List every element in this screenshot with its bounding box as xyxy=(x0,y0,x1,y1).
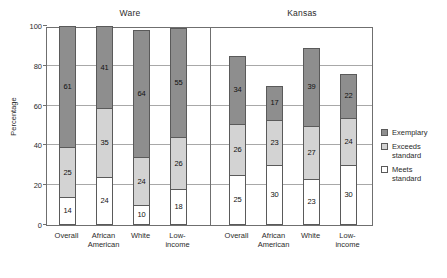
y-tick-mark xyxy=(43,65,47,66)
bar-segment-value: 34 xyxy=(233,86,241,94)
bar-segment-value: 27 xyxy=(307,149,315,157)
bar-segment-meets-standard: 24 xyxy=(96,177,113,225)
bar-segment-exemplary: 22 xyxy=(340,74,357,118)
legend-item: Exemplary xyxy=(381,128,447,137)
legend-item: Meetsstandard xyxy=(381,165,447,183)
bar-segment-value: 24 xyxy=(100,197,108,205)
plot-area: 1425612435411024641826552526343023172327… xyxy=(46,27,373,226)
bar-segment-exceeds-standard: 24 xyxy=(340,118,357,166)
bar-segment-value: 18 xyxy=(174,203,182,211)
bar-segment-exemplary: 17 xyxy=(266,86,283,120)
bar-segment-meets-standard: 23 xyxy=(303,179,320,225)
y-tick-mark xyxy=(43,105,47,106)
legend-swatch-icon xyxy=(381,143,388,150)
bar-segment-meets-standard: 10 xyxy=(133,205,150,225)
bar-segment-value: 64 xyxy=(137,90,145,98)
stacked-bar-chart: Ware Kansas Percentage 020406080100 1425… xyxy=(0,0,447,278)
stacked-bar: 243541 xyxy=(96,26,113,225)
bar-segment-value: 22 xyxy=(344,92,352,100)
bar-segment-value: 39 xyxy=(307,83,315,91)
panel-divider xyxy=(210,28,211,225)
y-tick-mark xyxy=(43,25,47,26)
bar-segment-exemplary: 34 xyxy=(229,56,246,124)
y-axis-ticks: 020406080100 xyxy=(16,0,42,278)
bar-segment-exceeds-standard: 35 xyxy=(96,108,113,178)
y-tick-label: 80 xyxy=(18,63,42,71)
legend-swatch-icon xyxy=(381,129,388,136)
y-tick-mark xyxy=(43,184,47,185)
bar-segment-meets-standard: 25 xyxy=(229,175,246,225)
bar-segment-exemplary: 61 xyxy=(59,26,76,147)
bar-segment-value: 41 xyxy=(100,64,108,72)
y-tick-label: 40 xyxy=(18,142,42,150)
y-tick-label: 60 xyxy=(18,103,42,111)
legend-swatch-icon xyxy=(381,166,388,173)
stacked-bar: 302317 xyxy=(266,86,283,225)
y-tick-label: 20 xyxy=(18,182,42,190)
bar-segment-exemplary: 55 xyxy=(170,28,187,137)
stacked-bar: 232739 xyxy=(303,48,320,225)
x-axis-label: Low-income xyxy=(155,231,201,249)
bar-segment-value: 30 xyxy=(344,191,352,199)
stacked-bar: 302422 xyxy=(340,74,357,225)
bar-segment-value: 10 xyxy=(137,211,145,219)
legend: ExemplaryExceedsstandardMeetsstandard xyxy=(381,128,447,188)
bar-segment-exemplary: 39 xyxy=(303,48,320,126)
bar-segment-value: 23 xyxy=(270,139,278,147)
bar-segment-exceeds-standard: 23 xyxy=(266,120,283,166)
bar-segment-value: 25 xyxy=(63,169,71,177)
legend-item: Exceedsstandard xyxy=(381,142,447,160)
legend-label: Exemplary xyxy=(392,128,427,137)
legend-label: Meetsstandard xyxy=(392,165,421,183)
bar-segment-value: 30 xyxy=(270,191,278,199)
y-tick-mark xyxy=(43,224,47,225)
stacked-bar: 102464 xyxy=(133,30,150,225)
bar-segment-meets-standard: 30 xyxy=(340,165,357,225)
bar-segment-value: 26 xyxy=(233,146,241,154)
bar-segment-value: 14 xyxy=(63,207,71,215)
y-tick-label: 0 xyxy=(18,222,42,230)
bar-segment-meets-standard: 30 xyxy=(266,165,283,225)
stacked-bar: 182655 xyxy=(170,28,187,225)
panel-title-ware: Ware xyxy=(60,8,200,18)
bar-segment-exceeds-standard: 26 xyxy=(229,124,246,176)
x-axis-label: Low-income xyxy=(325,231,371,249)
legend-label: Exceedsstandard xyxy=(392,142,421,160)
panel-title-kansas: Kansas xyxy=(232,8,372,18)
bar-segment-meets-standard: 14 xyxy=(59,197,76,225)
stacked-bar: 252634 xyxy=(229,56,246,225)
bar-segment-value: 35 xyxy=(100,139,108,147)
bar-segment-value: 61 xyxy=(63,83,71,91)
bar-segment-exceeds-standard: 25 xyxy=(59,147,76,197)
y-tick-label: 100 xyxy=(18,23,42,31)
bar-segment-exemplary: 64 xyxy=(133,30,150,157)
bar-segment-value: 24 xyxy=(344,138,352,146)
y-tick-mark xyxy=(43,144,47,145)
bar-segment-value: 24 xyxy=(137,178,145,186)
bar-segment-exemplary: 41 xyxy=(96,26,113,108)
stacked-bar: 142561 xyxy=(59,26,76,225)
bar-segment-value: 25 xyxy=(233,196,241,204)
bar-segment-exceeds-standard: 27 xyxy=(303,126,320,180)
bar-segment-value: 55 xyxy=(174,79,182,87)
bar-segment-value: 17 xyxy=(270,99,278,107)
bar-segment-value: 23 xyxy=(307,198,315,206)
bar-segment-exceeds-standard: 26 xyxy=(170,137,187,189)
bar-segment-meets-standard: 18 xyxy=(170,189,187,225)
bar-segment-exceeds-standard: 24 xyxy=(133,157,150,205)
bar-segment-value: 26 xyxy=(174,160,182,168)
